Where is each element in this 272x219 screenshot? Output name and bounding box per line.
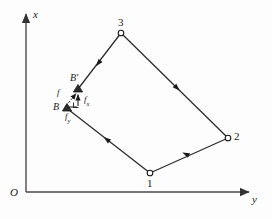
- node-marker-1: [147, 170, 153, 176]
- force-label-fx-subscript: x: [87, 100, 90, 107]
- force-label-fy: fy: [65, 112, 70, 123]
- figure-canvas: [0, 0, 272, 219]
- origin-label: O: [10, 187, 18, 198]
- linkage-edges-group: [69, 33, 228, 173]
- y-axis-label: y: [252, 194, 257, 205]
- point-label-b: B: [53, 102, 59, 112]
- force-label-f: f: [57, 88, 60, 97]
- node-markers-group: [118, 30, 231, 176]
- x-axis-label: x: [33, 9, 38, 20]
- force-label-f-text: f: [57, 87, 60, 97]
- node-marker-2: [225, 135, 231, 141]
- node-label-1: 1: [147, 178, 153, 189]
- node-label-2: 2: [234, 131, 240, 142]
- point-label-b-prime: B': [70, 73, 78, 83]
- force-label-fy-subscript: y: [68, 117, 71, 124]
- edge-direction-arrows-group: [94, 59, 190, 158]
- node-marker-3: [118, 30, 124, 36]
- force-label-fx: fx: [84, 95, 89, 106]
- mechanics-figure: x y O 1 2 3 B B' f fx fy: [0, 0, 272, 219]
- node-label-3: 3: [118, 17, 124, 28]
- axes-group: [26, 14, 249, 192]
